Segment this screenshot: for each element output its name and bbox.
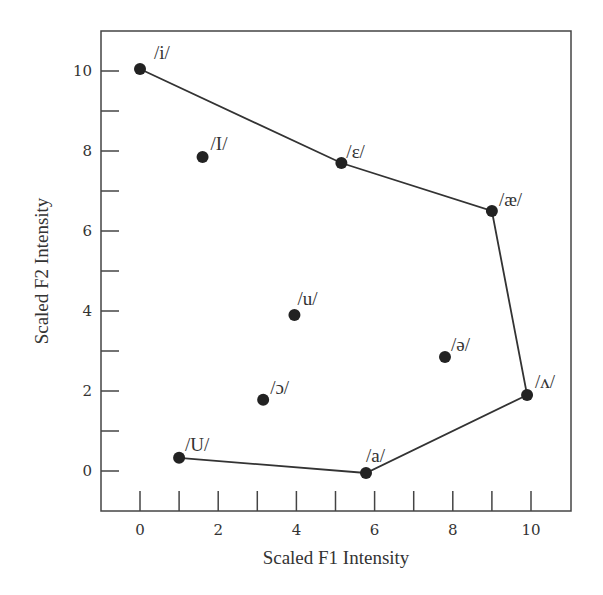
data-point-label: /ɛ/ — [346, 141, 365, 162]
data-point-label: /i/ — [154, 42, 171, 63]
y-tick-label: 8 — [82, 142, 92, 160]
data-point-marker — [521, 389, 533, 401]
x-tick-label: 10 — [521, 521, 540, 539]
x-tick-label: 6 — [370, 521, 380, 539]
x-tick-label: 2 — [213, 521, 223, 539]
vowel-outline-line — [140, 69, 527, 473]
data-point-marker — [197, 151, 209, 163]
data-point-marker — [486, 205, 498, 217]
data-point-marker — [439, 351, 451, 363]
data-point-label: /ɔ/ — [270, 377, 290, 398]
y-tick-label: 2 — [82, 382, 92, 400]
data-point-marker — [173, 452, 185, 464]
y-axis-title: Scaled F2 Intensity — [31, 197, 52, 344]
x-tick-label: 0 — [135, 521, 145, 539]
y-tick-label: 4 — [82, 302, 92, 320]
y-tick-label: 0 — [82, 462, 92, 480]
data-point-label: /æ/ — [499, 189, 523, 210]
data-point-label: /I/ — [211, 133, 229, 154]
data-points: /i//I//ɛ//æ//u//ə//ʌ//ɔ//U//a/ — [134, 42, 556, 479]
y-tick-label: 10 — [73, 62, 92, 80]
plot-frame — [101, 31, 571, 511]
x-axis-title: Scaled F1 Intensity — [263, 547, 410, 568]
x-axis-ticks: 0246810 — [135, 491, 540, 539]
y-tick-label: 6 — [82, 222, 92, 240]
data-point-marker — [257, 394, 269, 406]
x-tick-label: 8 — [448, 521, 458, 539]
data-point-label: /u/ — [297, 288, 318, 309]
data-point-marker — [134, 63, 146, 75]
data-point-label: /U/ — [185, 434, 210, 455]
data-point-label: /a/ — [366, 445, 386, 466]
data-point-marker — [360, 467, 372, 479]
data-point-label: /ʌ/ — [535, 371, 556, 392]
vowel-space-chart: 0246810 0246810 Scaled F1 Intensity Scal… — [0, 0, 603, 595]
data-point-label: /ə/ — [451, 334, 471, 355]
x-tick-label: 4 — [292, 521, 302, 539]
data-point-marker — [288, 309, 300, 321]
y-axis-ticks: 0246810 — [73, 62, 119, 480]
